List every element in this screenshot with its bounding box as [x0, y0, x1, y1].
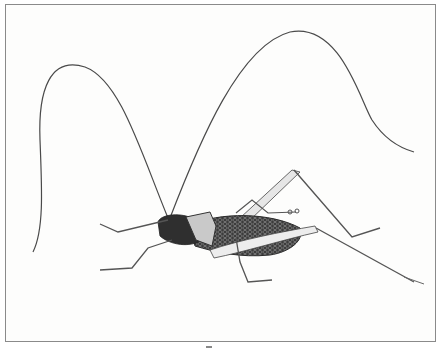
front-leg-upper — [100, 220, 168, 232]
katydid-illustration — [0, 0, 440, 351]
plate-mark — [206, 346, 212, 348]
front-leg-lower — [100, 240, 172, 270]
right-antenna — [170, 31, 414, 218]
